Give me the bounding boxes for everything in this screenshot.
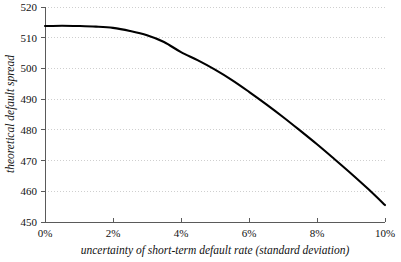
y-tick-label-450: 450 [21,216,38,228]
x-tick-label-10: 10% [375,227,395,239]
y-tick-label-480: 480 [21,124,38,136]
y-tick-label-470: 470 [21,155,38,167]
x-tick-label-2: 2% [106,227,121,239]
y-tick-label-520: 520 [21,1,38,13]
default-spread-line-chart: 0%2%4%6%8%10% 450460470480490500510520 u… [0,0,401,262]
y-axis-title: theoretical default spread [4,55,17,173]
y-tick-label-490: 490 [21,93,38,105]
x-tick-label-0: 0% [38,227,53,239]
y-tick-label-500: 500 [21,62,38,74]
y-tick-label-510: 510 [21,32,38,44]
chart-background [0,0,401,262]
x-tick-label-8: 8% [310,227,325,239]
chart-container: 0%2%4%6%8%10% 450460470480490500510520 u… [0,0,401,262]
y-tick-label-460: 460 [21,185,38,197]
x-axis-title: uncertainty of short-term default rate (… [81,244,350,257]
x-tick-label-4: 4% [174,227,189,239]
x-tick-label-6: 6% [242,227,257,239]
